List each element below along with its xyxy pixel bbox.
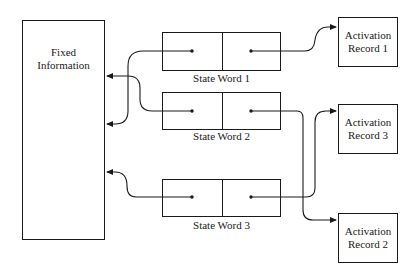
sw3-right-dot: [249, 195, 252, 198]
wire-sw2-to-fixed: [107, 76, 192, 111]
wire-sw1-to-fixed: [107, 51, 192, 124]
sw1-left-dot: [190, 49, 193, 52]
sw3-left-dot: [190, 195, 193, 198]
sw1-right-dot: [249, 49, 252, 52]
sw2-right-dot: [249, 109, 252, 112]
wire-sw3-to-fixed: [107, 172, 192, 197]
sw2-left-dot: [190, 109, 193, 112]
wire-sw3-to-ar3: [251, 111, 336, 197]
connector-lines: [0, 0, 419, 277]
wire-sw2-to-ar2: [251, 111, 336, 220]
wire-sw1-to-ar1: [251, 27, 336, 51]
